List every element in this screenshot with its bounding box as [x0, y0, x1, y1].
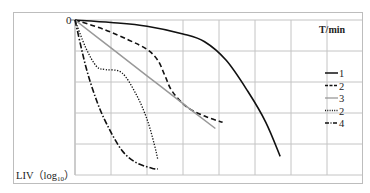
chart-frame: [14, 13, 363, 184]
y-axis-label-main: LIV（log: [16, 170, 58, 181]
y-origin-label: 0: [66, 14, 72, 26]
y-axis-label-close: ）: [64, 170, 74, 181]
chart: 0 LIV（log10） T/min 12324: [0, 0, 370, 193]
legend-label-2: 2: [339, 81, 344, 92]
legend-title: T/min: [319, 24, 346, 35]
legend-label-1: 1: [339, 68, 344, 79]
legend-label-5: 4: [339, 118, 345, 129]
legend-label-3: 3: [339, 93, 344, 104]
legend-label-4: 2: [339, 106, 344, 117]
